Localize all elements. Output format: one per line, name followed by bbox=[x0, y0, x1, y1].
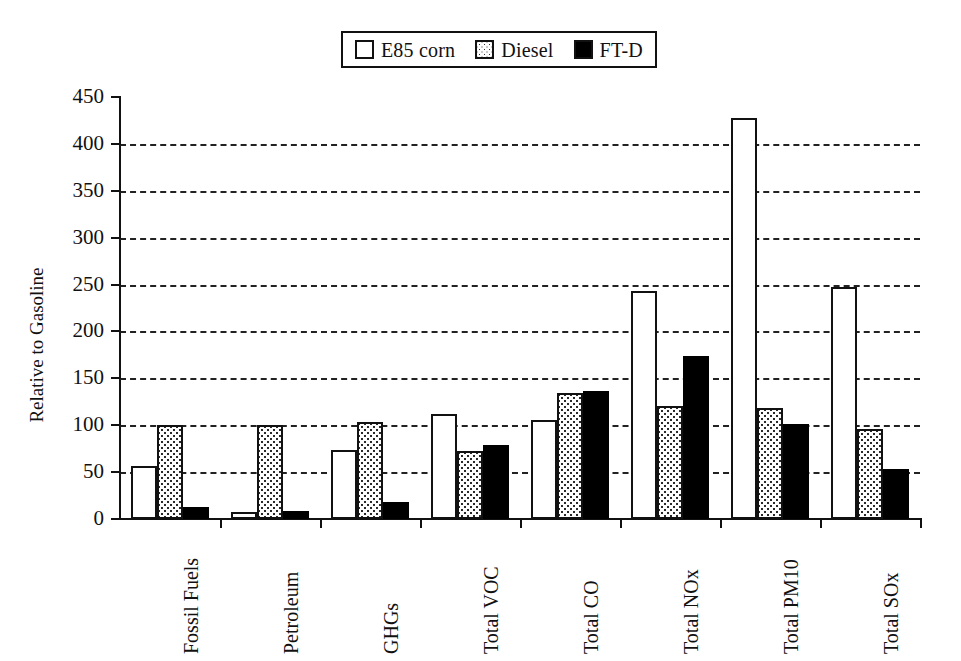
y-axis-title: Relative to Gasoline bbox=[26, 0, 48, 215]
y-tick-label-0: 0 bbox=[94, 508, 105, 529]
x-label-ghgs: GHGs bbox=[380, 603, 403, 654]
x-tick-7 bbox=[820, 518, 822, 528]
y-tick-400 bbox=[111, 143, 121, 145]
bar-diesel-ghgs bbox=[357, 422, 383, 519]
bar-e85-corn-total-sox bbox=[831, 287, 857, 519]
y-tick-50 bbox=[111, 471, 121, 473]
bar-diesel-total-nox bbox=[657, 406, 683, 519]
bar-diesel-fossil-fuels bbox=[157, 425, 183, 519]
bar-ft-d-total-nox bbox=[683, 356, 709, 519]
legend-label-e85-corn: E85 corn bbox=[381, 40, 455, 60]
bar-group-total-nox bbox=[631, 97, 709, 519]
bar-e85-corn-ghgs bbox=[331, 450, 357, 519]
y-tick-label-450: 450 bbox=[73, 86, 105, 107]
bar-diesel-total-sox bbox=[857, 429, 883, 519]
y-tick-0 bbox=[111, 518, 121, 520]
bar-group-total-sox bbox=[831, 97, 909, 519]
bar-diesel-total-voc bbox=[457, 451, 483, 519]
bar-group-ghgs bbox=[331, 97, 409, 519]
x-label-total-nox: Total NOx bbox=[680, 569, 703, 654]
bar-group-fossil-fuels bbox=[131, 97, 209, 519]
x-tick-8 bbox=[920, 518, 922, 528]
x-label-total-co: Total CO bbox=[580, 580, 603, 654]
x-label-fossil-fuels: Fossil Fuels bbox=[180, 558, 203, 654]
x-axis-category-labels: Fossil FuelsPetroleumGHGsTotal VOCTotal … bbox=[120, 534, 920, 659]
bar-group-total-co bbox=[531, 97, 609, 519]
y-tick-label-300: 300 bbox=[73, 227, 105, 248]
bar-ft-d-fossil-fuels bbox=[183, 507, 209, 519]
y-tick-label-400: 400 bbox=[73, 133, 105, 154]
bar-ft-d-petroleum bbox=[283, 511, 309, 519]
y-tick-200 bbox=[111, 330, 121, 332]
x-tick-2 bbox=[320, 518, 322, 528]
x-tick-1 bbox=[220, 518, 222, 528]
legend-label-diesel: Diesel bbox=[501, 40, 553, 60]
bar-diesel-petroleum bbox=[257, 425, 283, 519]
x-label-total-sox: Total SOx bbox=[880, 573, 903, 654]
bar-ft-d-total-sox bbox=[883, 469, 909, 519]
y-tick-label-100: 100 bbox=[73, 414, 105, 435]
x-label-total-voc: Total VOC bbox=[480, 566, 503, 654]
legend-label-ft-d: FT-D bbox=[600, 40, 643, 60]
x-tick-3 bbox=[420, 518, 422, 528]
bar-e85-corn-total-pm10 bbox=[731, 118, 757, 519]
legend-entry-ft-d: FT-D bbox=[574, 40, 643, 60]
x-tick-6 bbox=[720, 518, 722, 528]
y-tick-label-350: 350 bbox=[73, 180, 105, 201]
bar-group-total-pm10 bbox=[731, 97, 809, 519]
bar-e85-corn-fossil-fuels bbox=[131, 466, 157, 519]
y-tick-100 bbox=[111, 424, 121, 426]
legend-entry-diesel: Diesel bbox=[475, 40, 553, 60]
y-tick-label-250: 250 bbox=[73, 274, 105, 295]
legend-entry-e85-corn: E85 corn bbox=[355, 40, 455, 60]
bar-e85-corn-total-co bbox=[531, 420, 557, 519]
bar-e85-corn-total-voc bbox=[431, 414, 457, 519]
y-tick-label-50: 50 bbox=[83, 461, 104, 482]
y-tick-250 bbox=[111, 284, 121, 286]
bar-diesel-total-pm10 bbox=[757, 408, 783, 519]
x-tick-4 bbox=[520, 518, 522, 528]
bar-ft-d-ghgs bbox=[383, 502, 409, 519]
y-axis-line bbox=[119, 97, 121, 519]
y-tick-350 bbox=[111, 190, 121, 192]
bar-e85-corn-total-nox bbox=[631, 291, 657, 519]
bar-e85-corn-petroleum bbox=[231, 512, 257, 519]
bar-diesel-total-co bbox=[557, 393, 583, 519]
bar-group-total-voc bbox=[431, 97, 509, 519]
y-tick-150 bbox=[111, 377, 121, 379]
bar-ft-d-total-co bbox=[583, 391, 609, 519]
y-tick-label-150: 150 bbox=[73, 367, 105, 388]
bar-group-petroleum bbox=[231, 97, 309, 519]
x-label-petroleum: Petroleum bbox=[280, 572, 303, 654]
y-tick-300 bbox=[111, 237, 121, 239]
legend-swatch-ft-d bbox=[574, 40, 593, 59]
y-axis-title-text: Relative to Gasoline bbox=[26, 215, 48, 475]
plot-area: 050100150200250300350400450 bbox=[120, 97, 920, 519]
chart-legend: E85 corn Diesel FT-D bbox=[341, 31, 657, 68]
x-tick-5 bbox=[620, 518, 622, 528]
legend-swatch-e85-corn bbox=[355, 40, 374, 59]
y-tick-450 bbox=[111, 96, 121, 98]
bar-ft-d-total-pm10 bbox=[783, 424, 809, 519]
x-label-total-pm10: Total PM10 bbox=[780, 559, 803, 654]
bar-ft-d-total-voc bbox=[483, 445, 509, 519]
legend-swatch-diesel bbox=[475, 40, 494, 59]
y-tick-label-200: 200 bbox=[73, 320, 105, 341]
